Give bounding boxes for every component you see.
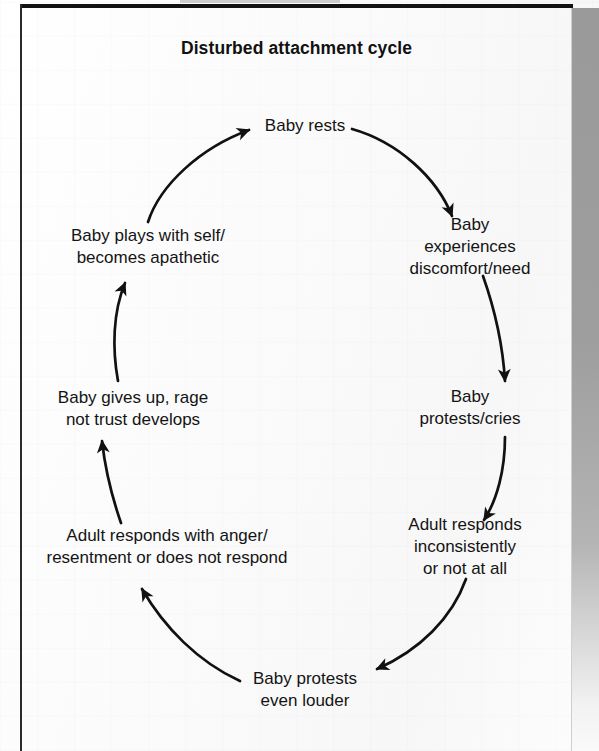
cycle-node-baby-rests: Baby rests	[265, 115, 345, 137]
book-page: Disturbed attachment cycle	[0, 0, 599, 751]
edge-adult-to-louder	[377, 579, 466, 669]
cycle-node-adult-anger: Adult responds with anger/ resentment or…	[47, 525, 288, 569]
cycle-node-adult-inconsistent: Adult responds inconsistently or not at …	[398, 514, 532, 580]
edge-experiences-to-protests	[483, 276, 505, 381]
cycle-node-baby-experiences: Baby experiences discomfort/need	[406, 214, 535, 280]
edge-louder-to-anger	[142, 589, 240, 681]
cycle-node-baby-protests-cries: Baby protests/cries	[406, 386, 535, 430]
cycle-node-baby-protests-louder: Baby protests even louder	[253, 668, 357, 712]
edge-protests-to-adult	[484, 437, 505, 520]
edge-rests-to-experiences	[352, 129, 452, 216]
cycle-node-baby-plays-with-self: Baby plays with self/ becomes apathetic	[71, 225, 225, 269]
edge-gives-up-to-plays	[114, 283, 125, 381]
edge-plays-to-rests	[148, 130, 249, 222]
cycle-node-baby-gives-up: Baby gives up, rage not trust develops	[58, 387, 208, 431]
cycle-arrows	[0, 0, 599, 751]
disturbed-attachment-cycle-diagram: Baby rests Baby experiences discomfort/n…	[0, 0, 599, 751]
edge-anger-to-gives-up	[102, 441, 121, 523]
